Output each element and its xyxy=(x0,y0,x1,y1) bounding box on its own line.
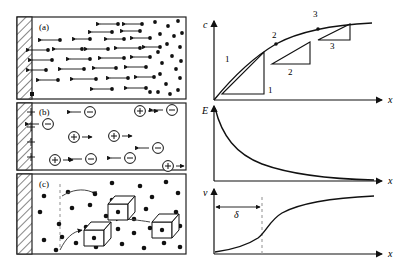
figure-container: (a) xyxy=(0,0,401,276)
panel-a-label: (a) xyxy=(39,22,49,32)
figure-caption xyxy=(0,262,401,276)
E-x-axis-label: x xyxy=(387,175,393,186)
delta-label: δ xyxy=(234,209,239,220)
v-axis-label: v xyxy=(203,187,208,198)
hatched-wall xyxy=(17,103,32,170)
c-axis-label: c xyxy=(203,19,208,30)
plot-field: E x xyxy=(201,105,393,186)
hatched-wall xyxy=(17,174,32,254)
c-curve xyxy=(214,23,372,100)
plot-velocity: v x δ xyxy=(203,187,393,259)
c-tangent-3: 3 xyxy=(330,41,335,51)
c-x-axis-label: x xyxy=(387,94,393,105)
panel-a: (a) xyxy=(17,17,186,99)
plot-concentration: c x 1 1 2 2 3 3 xyxy=(203,9,393,105)
E-curve xyxy=(215,108,374,180)
panel-b-label: (b) xyxy=(39,107,50,117)
v-x-axis-label: x xyxy=(387,248,393,259)
v-curve xyxy=(215,196,374,252)
c-marker-2: 2 xyxy=(272,30,277,40)
panel-b: (b) xyxy=(17,103,186,171)
panel-c-label: (c) xyxy=(39,179,49,189)
c-tangent-1: 1 xyxy=(268,85,273,95)
c-tangent-2: 2 xyxy=(288,67,293,77)
c-marker-3: 3 xyxy=(313,9,318,19)
tangent-triangles xyxy=(222,24,350,94)
panel-c: (c) xyxy=(17,174,186,254)
c-marker-1: 1 xyxy=(225,54,230,64)
E-axis-label: E xyxy=(201,105,208,116)
hatched-wall xyxy=(17,17,32,99)
